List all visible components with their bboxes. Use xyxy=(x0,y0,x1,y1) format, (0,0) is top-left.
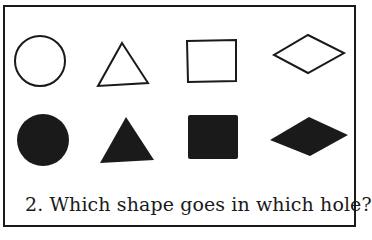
filled-circle-icon xyxy=(17,114,69,166)
hole-row xyxy=(15,35,344,86)
shape-row xyxy=(17,114,348,166)
filled-square-icon xyxy=(188,115,238,159)
hole-diamond-icon xyxy=(274,35,344,73)
hole-triangle-icon xyxy=(98,43,148,86)
filled-triangle-icon xyxy=(100,117,154,163)
question-caption: 2. Which shape goes in which hole? xyxy=(25,193,372,215)
hole-square-icon xyxy=(187,40,236,82)
filled-diamond-icon xyxy=(270,117,348,156)
hole-circle-icon xyxy=(15,36,65,86)
